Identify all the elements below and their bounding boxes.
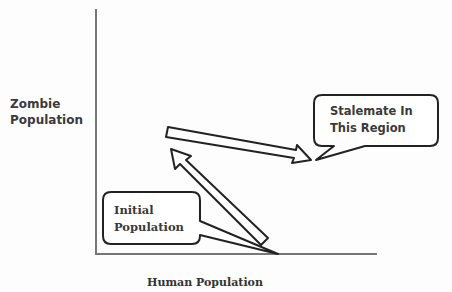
stalemate-line-2: This Region — [330, 120, 413, 137]
initial-line-2: Population — [114, 219, 184, 236]
diagram-graphics — [0, 0, 452, 292]
stalemate-line-1: Stalemate In — [330, 103, 413, 120]
diagram-canvas: Zombie Population Human Population Stale… — [0, 0, 452, 292]
initial-callout-text: Initial Population — [114, 202, 184, 236]
y-axis-label: Zombie Population — [10, 96, 83, 128]
stalemate-callout-text: Stalemate In This Region — [330, 103, 413, 137]
x-axis-label: Human Population — [0, 276, 410, 289]
initial-line-1: Initial — [114, 202, 184, 219]
